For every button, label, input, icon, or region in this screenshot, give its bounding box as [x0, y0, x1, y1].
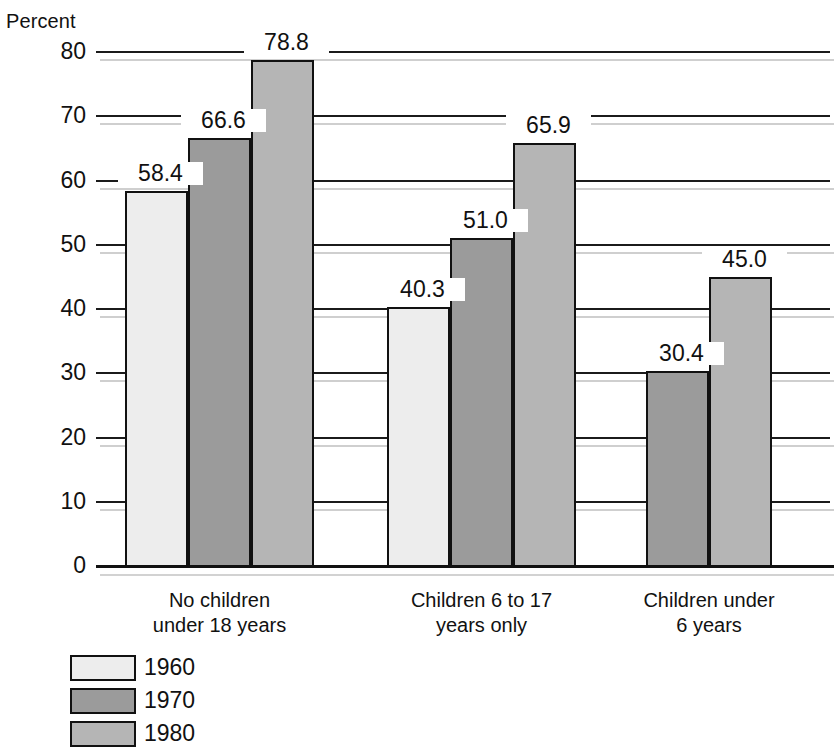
y-axis-tick-label: 60 [30, 169, 86, 192]
category-label: No childrenunder 18 years [100, 588, 340, 638]
legend-swatch [70, 688, 136, 714]
legend-swatch [70, 655, 136, 681]
bar-value-label: 65.9 [506, 114, 591, 137]
bar-value-label: 58.4 [118, 162, 203, 185]
legend: 196019701980 [70, 652, 330, 751]
gridline [96, 51, 830, 53]
x-axis-baseline [96, 565, 834, 568]
y-axis-tick-label: 20 [30, 426, 86, 449]
category-label-line2: under 18 years [100, 613, 340, 638]
bar-value-label: 66.6 [181, 109, 266, 132]
y-axis-tick-label: 0 [30, 554, 86, 577]
y-axis-tick-label: 10 [30, 490, 86, 513]
y-axis-tick-label: 40 [30, 297, 86, 320]
category-label-line2: 6 years [589, 613, 829, 638]
y-axis-tick-label: 50 [30, 233, 86, 256]
legend-item[interactable]: 1980 [70, 718, 330, 751]
bar-value-label: 78.8 [244, 31, 329, 54]
y-axis-tick-label: 80 [30, 40, 86, 63]
category-label-line1: Children under [589, 588, 829, 613]
category-label: Children 6 to 17years only [362, 588, 602, 638]
bar-value-label: 45.0 [702, 248, 787, 271]
legend-label: 1970 [144, 686, 195, 714]
bar-1960[interactable] [387, 307, 450, 567]
bar-1980[interactable] [513, 143, 576, 567]
bar-1960[interactable] [125, 191, 188, 567]
bar-value-label: 51.0 [443, 209, 528, 232]
bar-1980[interactable] [709, 277, 772, 567]
plot-area: 80706050403020100 58.466.678.840.351.065… [0, 0, 839, 600]
bar-value-label: 40.3 [380, 278, 465, 301]
bar-1970[interactable] [188, 138, 251, 567]
legend-label: 1980 [144, 719, 195, 747]
bar-value-label: 30.4 [639, 342, 724, 365]
legend-swatch [70, 721, 136, 747]
gridline-shadow [100, 59, 834, 61]
legend-item[interactable]: 1960 [70, 652, 330, 685]
category-label-line1: No children [100, 588, 340, 613]
x-axis-baseline-shadow [100, 574, 834, 576]
y-axis-tick-label: 30 [30, 361, 86, 384]
y-axis-tick-label: 70 [30, 104, 86, 127]
bar-chart: Percent 80706050403020100 58.466.678.840… [0, 0, 839, 752]
legend-label: 1960 [144, 653, 195, 681]
category-label-line1: Children 6 to 17 [362, 588, 602, 613]
bar-1980[interactable] [251, 60, 314, 567]
category-label: Children under6 years [589, 588, 829, 638]
bar-1970[interactable] [646, 371, 709, 567]
legend-item[interactable]: 1970 [70, 685, 330, 718]
category-label-line2: years only [362, 613, 602, 638]
